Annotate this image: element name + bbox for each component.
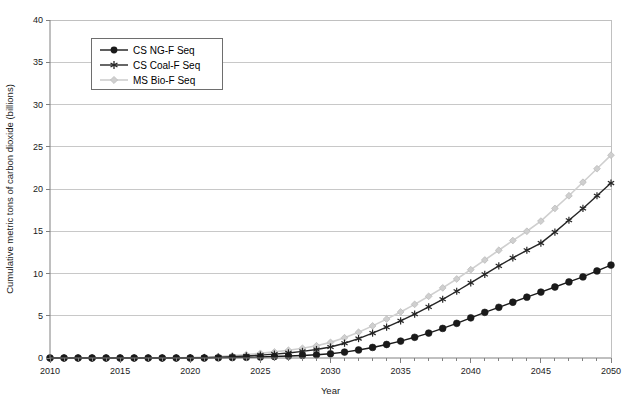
data-point-marker — [355, 347, 362, 354]
series-ms-bio-f-seq — [47, 152, 615, 362]
series-line — [50, 183, 611, 358]
data-point-marker — [468, 279, 474, 286]
y-tick-label: 5 — [38, 311, 43, 321]
data-point-marker — [369, 322, 376, 329]
series-cs-coal-f-seq — [47, 179, 614, 361]
y-tick-label: 30 — [33, 100, 43, 110]
x-axis-labels: 201020152020202520302035204020452050 — [40, 366, 621, 376]
data-point-marker — [327, 350, 334, 357]
data-point-marker — [439, 325, 446, 332]
x-tick-label: 2045 — [531, 366, 551, 376]
data-point-marker — [383, 324, 389, 331]
y-tick-label: 25 — [33, 142, 43, 152]
data-point-marker — [440, 296, 446, 303]
data-point-marker — [509, 299, 516, 306]
data-point-marker — [398, 317, 404, 324]
y-axis-ticks: 0510152025303540 — [33, 15, 50, 363]
data-point-marker — [397, 309, 404, 316]
x-tick-label: 2040 — [461, 366, 481, 376]
data-point-marker — [355, 329, 362, 336]
x-tick-label: 2010 — [40, 366, 60, 376]
x-tick-label: 2015 — [110, 366, 130, 376]
x-tick-label: 2025 — [250, 366, 270, 376]
data-point-marker — [524, 247, 530, 254]
data-point-marker — [482, 271, 488, 278]
y-tick-label: 0 — [38, 353, 43, 363]
data-point-marker — [537, 289, 544, 296]
data-point-marker — [369, 344, 376, 351]
x-tick-label: 2020 — [180, 366, 200, 376]
data-point-marker — [397, 338, 404, 345]
data-point-marker — [566, 279, 573, 286]
data-point-marker — [411, 334, 418, 341]
data-point-marker — [495, 304, 502, 311]
y-tick-label: 20 — [33, 184, 43, 194]
y-tick-label: 15 — [33, 226, 43, 236]
y-tick-label: 35 — [33, 57, 43, 67]
x-axis-title: Year — [321, 385, 340, 396]
data-point-marker — [341, 349, 348, 356]
x-axis-minor-ticks — [50, 358, 611, 363]
x-tick-label: 2035 — [391, 366, 411, 376]
legend-label: MS Bio-F Seq — [133, 75, 195, 86]
y-axis-title: Cumulative metric tons of carbon dioxide… — [4, 84, 15, 294]
data-point-marker — [369, 329, 375, 336]
data-point-marker — [510, 254, 516, 261]
y-tick-label: 40 — [33, 15, 43, 25]
series-line — [50, 155, 611, 358]
data-point-marker — [523, 294, 530, 301]
legend-marker-filled-circle-icon — [111, 47, 118, 54]
data-point-marker — [454, 288, 460, 295]
data-point-marker — [453, 320, 460, 327]
chart-container: 0510152025303540201020152020202520302035… — [0, 0, 626, 410]
data-point-marker — [467, 314, 474, 321]
legend: CS NG-F SeqCS Coal-F SeqMS Bio-F Seq — [91, 38, 222, 89]
x-tick-label: 2050 — [601, 366, 621, 376]
data-point-marker — [425, 293, 432, 300]
data-point-marker — [411, 301, 418, 308]
data-point-marker — [313, 351, 320, 358]
y-tick-label: 10 — [33, 269, 43, 279]
data-point-marker — [383, 316, 390, 323]
data-point-marker — [580, 273, 587, 280]
data-point-marker — [426, 303, 432, 310]
data-point-marker — [481, 309, 488, 316]
data-point-marker — [594, 268, 601, 275]
legend-label: CS Coal-F Seq — [133, 60, 200, 71]
x-tick-label: 2030 — [320, 366, 340, 376]
data-point-marker — [383, 341, 390, 348]
legend-label: CS NG-F Seq — [133, 45, 195, 56]
data-point-marker — [552, 284, 559, 291]
data-point-marker — [496, 262, 502, 269]
data-point-marker — [608, 262, 615, 269]
data-point-marker — [412, 310, 418, 317]
line-chart: 0510152025303540201020152020202520302035… — [0, 0, 626, 410]
data-point-marker — [425, 330, 432, 337]
series-group — [47, 152, 615, 362]
